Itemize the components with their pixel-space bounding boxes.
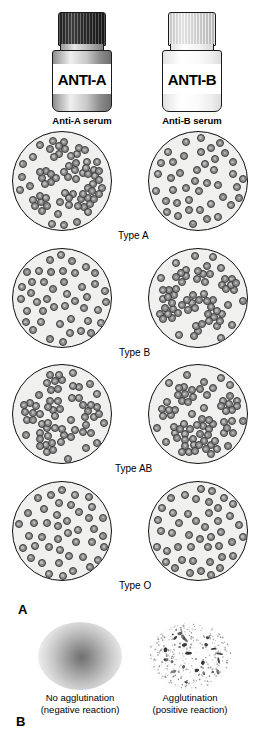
red-blood-cell [183,371,191,379]
red-blood-cell [60,278,68,286]
red-blood-cell [91,280,99,288]
red-blood-cell [189,220,197,228]
red-blood-cell [195,187,203,195]
red-blood-cell [197,485,205,493]
red-blood-cell [47,491,55,499]
red-blood-cell [188,410,196,418]
red-blood-cell [195,296,203,304]
red-blood-cell [157,274,165,282]
red-blood-cell [83,293,91,301]
red-blood-cell [226,512,234,520]
red-blood-cell [203,215,211,223]
plate-type-o-anti-b [148,481,248,581]
red-blood-cell [172,285,180,293]
blood-type-row-b: Type B [0,248,268,361]
serum-bottle-row: ANTI-A Anti-A serum ANTI-B Anti-B serum [0,12,268,124]
red-blood-cell [46,256,54,264]
red-blood-cell [217,374,225,382]
red-blood-cell [163,398,171,406]
red-blood-cell [224,301,232,309]
red-blood-cell [15,520,23,528]
red-blood-cell [71,297,79,305]
red-blood-cell [55,499,63,507]
red-blood-cell [50,303,58,311]
red-blood-cell [190,332,198,340]
red-blood-cell [72,538,80,546]
red-blood-cell [68,257,76,265]
red-blood-cell [206,558,214,566]
type-label-b: Type B [119,347,150,358]
red-blood-cell [152,187,160,195]
red-blood-cell [86,563,94,571]
red-blood-cell [84,317,92,325]
red-blood-cell [214,517,222,525]
specimen-image-negative [38,622,122,690]
red-blood-cell [26,182,34,190]
red-blood-cell [205,509,213,517]
red-blood-cell [19,544,27,552]
red-blood-cell [158,405,166,413]
red-blood-cell [63,517,71,525]
red-blood-cell [207,144,215,152]
red-blood-cell [79,428,87,436]
bottle-label-text: ANTI-A [58,72,106,87]
bottle-cap-icon [168,12,216,46]
specimen-image-positive [148,622,232,690]
red-blood-cell [205,416,213,424]
red-blood-cell [99,514,107,522]
red-blood-cell [88,503,96,511]
red-blood-cell [94,306,102,314]
red-blood-cell [67,433,75,441]
red-blood-cell [54,397,62,405]
red-blood-cell [207,200,215,208]
red-blood-cell [162,438,170,446]
red-blood-cell [36,141,44,149]
red-blood-cell [77,327,85,335]
red-blood-cell [184,510,192,518]
red-blood-cell [175,331,183,339]
red-blood-cell [210,166,218,174]
red-blood-cell [69,369,77,377]
red-blood-cell [201,523,209,531]
red-blood-cell [218,553,226,561]
red-blood-cell [159,315,167,323]
red-blood-cell [213,445,221,453]
red-blood-cell [63,290,71,298]
red-blood-cell [174,212,182,220]
red-blood-cell [232,279,240,287]
red-blood-cell [229,552,237,560]
red-blood-cell [159,412,167,420]
red-blood-cell [21,408,29,416]
red-blood-cell [31,542,39,550]
red-blood-cell [60,221,68,229]
red-blood-cell [229,500,237,508]
red-blood-cell [53,511,61,519]
red-blood-cell [157,527,165,535]
red-blood-cell [56,198,64,206]
red-blood-cell [239,533,247,541]
red-blood-cell [22,318,30,326]
red-blood-cell [91,269,99,277]
red-blood-cell [203,179,211,187]
specimen-no-agglutination: No agglutination (negative reaction) [38,622,122,690]
red-blood-cell [27,289,35,297]
red-blood-cell [97,319,105,327]
red-blood-cell [174,391,182,399]
red-blood-cell [72,175,80,183]
red-blood-cell [74,202,82,210]
red-blood-cell [200,378,208,386]
red-blood-cell [84,208,92,216]
red-blood-cell [43,295,51,303]
specimen-title-negative: No agglutination [38,692,122,704]
red-blood-cell [75,394,83,402]
red-blood-cell [23,307,31,315]
red-blood-cell [100,543,108,551]
red-blood-cell [81,413,89,421]
red-blood-cell [209,384,217,392]
red-blood-cell [186,569,194,577]
red-blood-cell [209,253,217,261]
red-blood-cell [173,199,181,207]
red-blood-cell [229,170,237,178]
red-blood-cell [178,556,186,564]
red-blood-cell [95,190,103,198]
